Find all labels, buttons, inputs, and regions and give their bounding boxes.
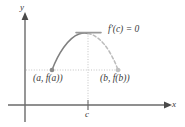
derivative-label: f′(c) = 0 [108,25,139,35]
x-axis-arrowhead [164,102,172,109]
left-endpoint-label: (a, f(a)) [33,74,63,84]
curve-solid-segment [52,33,88,70]
figure-canvas [0,0,185,127]
y-axis-arrowhead [22,12,29,20]
right-endpoint-label: (b, f(b)) [100,74,130,84]
point-b-marker [116,68,121,73]
curve-dashed-segment [88,33,118,70]
point-a-marker [50,68,55,73]
x-tick-label-c: c [85,110,89,119]
x-axis-label: x [172,100,176,109]
y-axis-label: y [20,3,24,12]
rolles-theorem-figure: y x c (a, f(a)) (b, f(b)) f′(c) = 0 [0,0,185,127]
